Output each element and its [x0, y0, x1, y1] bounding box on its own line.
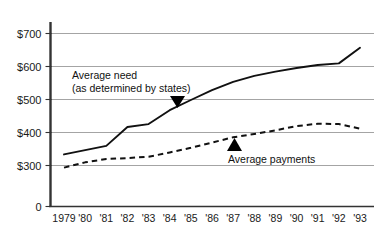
y-tick-label-$500: $500 — [17, 94, 41, 106]
x-tick-label-88: '88 — [247, 212, 261, 224]
series-line-average-payments — [64, 124, 360, 168]
x-tick-label-83: '83 — [142, 212, 156, 224]
chart-canvas: $700$600$500$400$3000 1979'80'81'82'83'8… — [0, 0, 377, 237]
x-tick-label-85: '85 — [184, 212, 198, 224]
series-line-average-need — [64, 48, 360, 155]
x-axis-labels-group: 1979'80'81'82'83'84'85'86'87'88'89'90'91… — [52, 212, 367, 224]
line-chart: $700$600$500$400$3000 1979'80'81'82'83'8… — [0, 0, 377, 237]
y-tick-label-0: 0 — [35, 201, 41, 213]
gridlines-group — [51, 34, 375, 166]
triangle-down-icon — [170, 96, 185, 108]
y-tick-label-$600: $600 — [17, 61, 41, 73]
y-axis-labels-group: $700$600$500$400$3000 — [17, 28, 41, 213]
x-tick-label-93: '93 — [353, 212, 367, 224]
x-tick-label-89: '89 — [269, 212, 283, 224]
x-tick-label-91: '91 — [311, 212, 325, 224]
y-tick-label-$300: $300 — [17, 160, 41, 172]
triangle-up-icon — [227, 138, 242, 151]
y-tick-label-$400: $400 — [17, 127, 41, 139]
annotation-average-payments: Average payments — [227, 138, 315, 165]
x-tick-label-92: '92 — [332, 212, 346, 224]
annotation-average-need-line1: Average need — [72, 69, 137, 81]
x-tick-label-86: '86 — [205, 212, 219, 224]
x-tick-label-82: '82 — [121, 212, 135, 224]
x-tick-label-80: '80 — [78, 212, 92, 224]
annotation-average-need-line2: (as determined by states) — [72, 82, 190, 94]
annotation-average-need: Average need (as determined by states) — [72, 69, 190, 108]
x-tick-label-84: '84 — [163, 212, 177, 224]
x-tick-label-87: '87 — [226, 212, 240, 224]
x-tick-label-90: '90 — [290, 212, 304, 224]
x-tick-label-81: '81 — [99, 212, 113, 224]
y-tick-label-$700: $700 — [17, 28, 41, 40]
x-tick-label-1979: 1979 — [52, 212, 76, 224]
annotation-average-payments-label: Average payments — [228, 153, 315, 165]
